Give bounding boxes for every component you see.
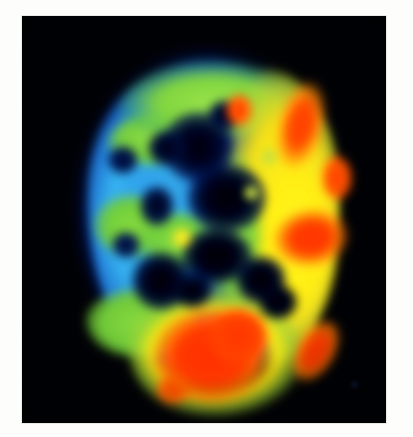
left-central-cold-spot: [140, 186, 174, 226]
right-central-focus: [244, 186, 258, 200]
midline-frontal-hotspot: [226, 94, 252, 126]
left-rim-cold-spot: [108, 146, 138, 174]
brain-slice: [22, 16, 386, 423]
right-lateral-hotspot: [322, 156, 352, 200]
left-frontal-cold-spot: [148, 130, 186, 166]
film-speck: [352, 382, 357, 387]
midline-bright-focus: [172, 228, 192, 248]
brain-scan-image: [22, 16, 386, 423]
right-upper-focus: [262, 150, 276, 164]
occipital-hotspot-lobe: [208, 308, 268, 364]
midline-posterior-cold-spot: [172, 274, 212, 308]
scan-page: [0, 0, 413, 437]
right-occipital-cold-spot: [258, 284, 298, 320]
inferior-occipital-hotspot: [156, 376, 190, 404]
left-lower-cold-spot: [112, 232, 140, 258]
